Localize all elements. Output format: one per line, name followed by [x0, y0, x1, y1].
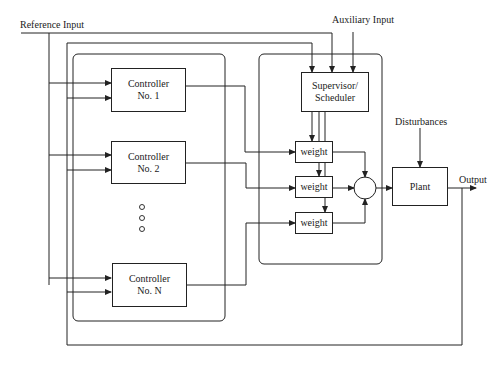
controllerN-output-line: [186, 223, 295, 285]
plant-label: Plant: [410, 181, 431, 193]
controller-1-block: Controller No. 1: [111, 68, 186, 112]
controller-2-number: No. 2: [137, 163, 159, 175]
summing-junction: [354, 177, 376, 199]
weight-3-label: weight: [300, 217, 327, 229]
controller-2-block: Controller No. 2: [111, 141, 186, 184]
controller-1-title: Controller: [128, 78, 169, 90]
reference-input-label: Reference Input: [20, 19, 84, 30]
controller-n-title: Controller: [129, 273, 170, 285]
supervisor-scheduler-block: Supervisor/ Scheduler: [301, 72, 369, 112]
supervisor-subtitle: Scheduler: [315, 92, 355, 104]
reference-input-line: [21, 33, 332, 72]
weight-block-3: weight: [295, 212, 333, 234]
ellipsis-dot: [139, 215, 145, 221]
auxiliary-input-label: Auxiliary Input: [332, 14, 394, 25]
diagram-canvas: Reference Input Auxiliary Input Disturba…: [0, 0, 501, 365]
controller-2-title: Controller: [128, 151, 169, 163]
ellipsis-dot: [139, 226, 145, 232]
weight-block-1: weight: [295, 141, 333, 163]
controller-n-block: Controller No. N: [112, 263, 187, 307]
controller1-output-line: [186, 86, 295, 152]
weight-2-label: weight: [300, 181, 327, 193]
controller-n-number: No. N: [137, 285, 161, 297]
controller-1-number: No. 1: [137, 90, 159, 102]
disturbances-label: Disturbances: [395, 116, 447, 127]
supervisor-title: Supervisor/: [312, 80, 358, 92]
plant-block: Plant: [392, 167, 448, 206]
ellipsis-dot: [139, 204, 145, 210]
controller2-output-line: [186, 163, 295, 188]
output-label: Output: [459, 174, 487, 185]
weight-block-2: weight: [295, 176, 333, 198]
weight-1-label: weight: [300, 146, 327, 158]
